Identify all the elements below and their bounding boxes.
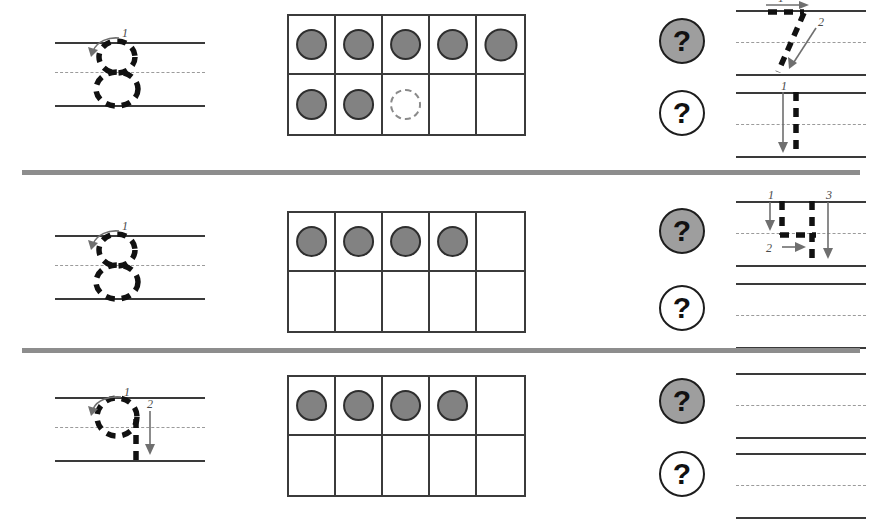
ten-frame-cell xyxy=(336,436,383,495)
guide-line-middle xyxy=(736,405,866,406)
counter-filled xyxy=(296,29,328,61)
question-badge-label: ? xyxy=(673,459,691,489)
numeral-8-stroke-art: 1 xyxy=(55,20,205,115)
guide-line-top xyxy=(55,397,205,399)
ten-frame-cell xyxy=(477,377,524,436)
counter-filled xyxy=(437,29,469,61)
question-badge-white-row-1[interactable]: ? xyxy=(659,90,705,136)
question-badge-white-row-2[interactable]: ? xyxy=(659,285,705,331)
svg-text:2: 2 xyxy=(147,397,153,411)
question-badge-gray-row-1[interactable]: ? xyxy=(659,18,705,64)
guide-line-bottom xyxy=(736,156,866,158)
ten-frame-cell xyxy=(289,16,336,75)
guide-line-middle xyxy=(55,265,205,266)
counter-filled xyxy=(390,29,422,61)
ten-frame-cell xyxy=(430,272,477,331)
ten-frame-cell xyxy=(383,436,430,495)
guide-line-middle xyxy=(736,233,866,234)
practice-guide-row-2-a[interactable]: 1 2 3 xyxy=(736,197,866,273)
counter-filled xyxy=(437,226,469,258)
ten-frame-cell xyxy=(430,213,477,272)
ten-frame-cell xyxy=(477,213,524,272)
svg-text:2: 2 xyxy=(818,15,824,29)
question-badge-label: ? xyxy=(673,386,691,416)
guide-line-middle xyxy=(736,485,866,486)
ten-frame-cell xyxy=(430,436,477,495)
guide-line-bottom xyxy=(736,517,866,519)
counter-filled xyxy=(296,226,328,258)
ten-frame-cell xyxy=(336,75,383,134)
guide-line-bottom xyxy=(55,298,205,300)
counter-dashed[interactable] xyxy=(390,89,422,121)
ten-frame-cell xyxy=(336,377,383,436)
ten-frame-row-1[interactable] xyxy=(287,14,526,136)
svg-text:3: 3 xyxy=(825,188,832,202)
guide-line-top xyxy=(736,373,866,375)
practice-guide-row-2-b[interactable] xyxy=(736,279,866,355)
guide-line-bottom xyxy=(736,265,866,267)
question-badge-label: ? xyxy=(673,293,691,323)
ten-frame-cell xyxy=(383,377,430,436)
question-badge-gray-row-3[interactable]: ? xyxy=(659,378,705,424)
question-badge-label: ? xyxy=(673,216,691,246)
guide-line-bottom xyxy=(55,460,205,462)
practice-guide-row-3-a[interactable] xyxy=(736,369,866,445)
counter-filled xyxy=(343,29,375,61)
numeral-8-stroke-art: 1 xyxy=(55,213,205,308)
ten-frame-cell xyxy=(336,213,383,272)
ten-frame-cell xyxy=(289,272,336,331)
practice-guide-row-1-a[interactable]: 1 2 xyxy=(736,6,866,82)
ten-frame-cell xyxy=(289,436,336,495)
ten-frame-row-3[interactable] xyxy=(287,375,526,497)
ten-frame-cell xyxy=(383,16,430,75)
ten-frame-cell xyxy=(336,272,383,331)
numeral-9-stroke-art: 1 2 xyxy=(55,375,205,470)
guide-line-top xyxy=(736,201,866,203)
guide-line-middle xyxy=(736,42,866,43)
ten-frame-cell xyxy=(289,213,336,272)
ten-frame-cell xyxy=(383,272,430,331)
guide-line-bottom xyxy=(736,74,866,76)
guide-line-bottom xyxy=(736,437,866,439)
guide-line-top xyxy=(736,10,866,12)
svg-text:1: 1 xyxy=(768,188,774,202)
practice-guide-row-1-b[interactable]: 1 xyxy=(736,88,866,164)
counter-filled xyxy=(484,28,517,61)
guide-line-top xyxy=(736,453,866,455)
worksheet-row-3: 1 2 ? ? xyxy=(0,353,871,517)
counter-filled xyxy=(296,390,328,422)
counter-filled xyxy=(343,390,375,422)
ten-frame-cell xyxy=(383,213,430,272)
ten-frame-cell xyxy=(477,272,524,331)
guide-line-middle xyxy=(55,72,205,73)
ten-frame-cell xyxy=(477,436,524,495)
counter-filled xyxy=(390,226,422,258)
trace-guide-row-3[interactable]: 1 2 xyxy=(55,375,205,465)
svg-text:1: 1 xyxy=(122,219,128,233)
svg-text:2: 2 xyxy=(766,241,772,255)
worksheet-row-2: 1 ? ? xyxy=(0,175,871,353)
ten-frame-cell xyxy=(477,75,524,134)
ten-frame-cell xyxy=(477,16,524,75)
counter-filled xyxy=(296,89,328,121)
ten-frame-cell xyxy=(430,377,477,436)
ten-frame-cell xyxy=(383,75,430,134)
trace-guide-row-1[interactable]: 1 xyxy=(55,20,205,110)
question-badge-gray-row-2[interactable]: ? xyxy=(659,208,705,254)
question-badge-label: ? xyxy=(673,26,691,56)
question-badge-white-row-3[interactable]: ? xyxy=(659,451,705,497)
guide-line-bottom xyxy=(55,105,205,107)
svg-text:1: 1 xyxy=(778,0,784,5)
practice-guide-row-3-b[interactable] xyxy=(736,449,866,523)
guide-line-middle xyxy=(55,427,205,428)
counter-filled xyxy=(390,390,422,422)
trace-guide-row-2[interactable]: 1 xyxy=(55,213,205,303)
guide-line-top xyxy=(736,92,866,94)
ten-frame-row-2[interactable] xyxy=(287,211,526,333)
guide-line-top xyxy=(55,42,205,44)
counter-filled xyxy=(343,89,375,121)
svg-text:1: 1 xyxy=(122,26,128,40)
guide-line-top xyxy=(736,283,866,285)
ten-frame-cell xyxy=(289,377,336,436)
